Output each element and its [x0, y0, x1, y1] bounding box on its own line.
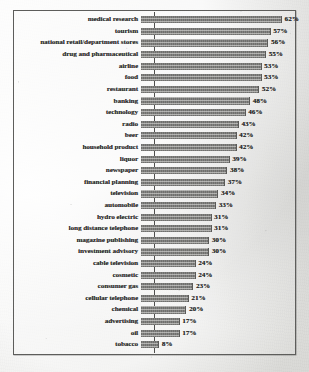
bar-row: newspaper38%: [14, 165, 295, 177]
value-label: 62%: [285, 16, 299, 23]
bar-zone: 17%: [141, 316, 295, 328]
bar: [141, 167, 227, 174]
bar-row: television34%: [14, 188, 295, 200]
value-label: 17%: [182, 330, 196, 337]
bar-zone: 31%: [141, 211, 295, 223]
category-label: financial planning: [14, 179, 141, 186]
bar: [141, 132, 237, 139]
bar: [141, 260, 196, 267]
bar-zone: 43%: [141, 118, 295, 130]
bar-row: automobile33%: [14, 200, 295, 212]
value-label: 42%: [239, 132, 253, 139]
bar-row: cellular telephone21%: [14, 293, 295, 305]
category-label: radio: [14, 121, 141, 128]
category-label: advertising: [14, 318, 141, 325]
category-label: oil: [14, 330, 141, 337]
chart-plot-frame: medical research62%tourism57%national re…: [13, 10, 296, 355]
bar-zone: 46%: [141, 107, 295, 119]
value-label: 30%: [212, 237, 226, 244]
bar-row: medical research62%: [14, 14, 295, 26]
bar: [141, 330, 180, 337]
category-label: tobacco: [14, 341, 141, 348]
category-label: restaurant: [14, 86, 141, 93]
value-label: 33%: [219, 202, 233, 209]
bar: [141, 144, 237, 151]
bar-zone: 39%: [141, 153, 295, 165]
category-label: tourism: [14, 28, 141, 35]
bar: [141, 16, 282, 23]
bar-zone: 24%: [141, 258, 295, 270]
bar: [141, 283, 193, 290]
bar-zone: 33%: [141, 200, 295, 212]
bar-zone: 48%: [141, 95, 295, 107]
bar-zone: 52%: [141, 84, 295, 96]
bar-row: chemical20%: [14, 304, 295, 316]
bar-row: national retail/department stores56%: [14, 37, 295, 49]
bar: [141, 179, 225, 186]
value-label: 24%: [198, 260, 212, 267]
bar-row: radio43%: [14, 118, 295, 130]
category-label: chemical: [14, 306, 141, 313]
bar-rows-container: medical research62%tourism57%national re…: [14, 14, 295, 351]
bar: [141, 341, 159, 348]
bar-row: liquor39%: [14, 153, 295, 165]
bar: [141, 86, 259, 93]
value-label: 53%: [264, 63, 278, 70]
value-label: 37%: [228, 179, 242, 186]
value-label: 31%: [214, 214, 228, 221]
category-label: long distance telephone: [14, 225, 141, 232]
bar-row: drug and pharmaceutical55%: [14, 49, 295, 61]
bar-zone: 8%: [141, 339, 295, 351]
value-label: 21%: [191, 295, 205, 302]
bar: [141, 214, 212, 221]
bar-row: household product42%: [14, 142, 295, 154]
category-label: liquor: [14, 156, 141, 163]
bar-row: airline53%: [14, 60, 295, 72]
value-label: 39%: [232, 156, 246, 163]
bar-zone: 42%: [141, 130, 295, 142]
category-label: technology: [14, 109, 141, 116]
value-label: 8%: [162, 341, 173, 348]
category-label: food: [14, 74, 141, 81]
chart-page: medical research62%tourism57%national re…: [0, 0, 309, 372]
bar-zone: 38%: [141, 165, 295, 177]
bar-row: technology46%: [14, 107, 295, 119]
category-label: drug and pharmaceutical: [14, 51, 141, 58]
bar: [141, 272, 196, 279]
bar-row: advertising17%: [14, 316, 295, 328]
value-label: 17%: [182, 318, 196, 325]
category-label: hydro electric: [14, 214, 141, 221]
bar-row: financial planning37%: [14, 177, 295, 189]
value-label: 55%: [269, 51, 283, 58]
bar-zone: 21%: [141, 293, 295, 305]
bar-row: consumer gas23%: [14, 281, 295, 293]
bar: [141, 63, 262, 70]
bar: [141, 109, 246, 116]
bar-row: investment advisory30%: [14, 246, 295, 258]
category-label: medical research: [14, 16, 141, 23]
bar-zone: 42%: [141, 142, 295, 154]
bar-zone: 31%: [141, 223, 295, 235]
category-label: television: [14, 190, 141, 197]
value-label: 20%: [189, 306, 203, 313]
value-label: 34%: [221, 190, 235, 197]
bar-zone: 20%: [141, 304, 295, 316]
value-label: 53%: [264, 74, 278, 81]
value-label: 42%: [239, 144, 253, 151]
bar-row: food53%: [14, 72, 295, 84]
bar-row: restaurant52%: [14, 84, 295, 96]
value-label: 52%: [262, 86, 276, 93]
bar: [141, 306, 186, 313]
value-label: 46%: [248, 109, 262, 116]
bar: [141, 237, 209, 244]
bar-zone: 34%: [141, 188, 295, 200]
bar: [141, 248, 209, 255]
category-label: cable television: [14, 260, 141, 267]
bar: [141, 121, 239, 128]
bar: [141, 202, 216, 209]
bar: [141, 51, 266, 58]
bar-row: beer42%: [14, 130, 295, 142]
bar: [141, 225, 212, 232]
bar-row: magazine publishing30%: [14, 235, 295, 247]
bar-row: long distance telephone31%: [14, 223, 295, 235]
